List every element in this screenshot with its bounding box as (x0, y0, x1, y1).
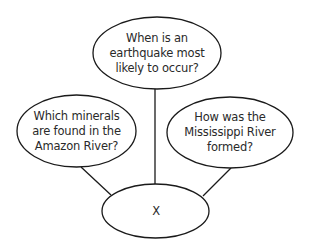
node-right-line-2: Mississippi River (184, 125, 275, 140)
node-top-line-1: When is an (109, 31, 204, 46)
node-top-line-2: earthquake most (109, 46, 204, 61)
connector-left-to-center (81, 167, 111, 195)
node-left-line-3: Amazon River? (32, 139, 121, 154)
connector-right-to-center (203, 168, 231, 196)
node-left-line-2: are found in the (32, 124, 121, 139)
node-right-line-1: How was the (184, 110, 275, 125)
node-center-label: X (106, 198, 206, 224)
node-right-label: How was the Mississippi River formed? (170, 99, 290, 165)
node-right-line-3: formed? (184, 140, 275, 155)
node-top-label: When is an earthquake most likely to occ… (97, 20, 217, 86)
node-top-line-3: likely to occur? (109, 61, 204, 76)
node-left-label: Which minerals are found in the Amazon R… (20, 98, 133, 164)
concept-web-diagram: When is an earthquake most likely to occ… (0, 0, 309, 252)
node-left-line-1: Which minerals (32, 109, 121, 124)
